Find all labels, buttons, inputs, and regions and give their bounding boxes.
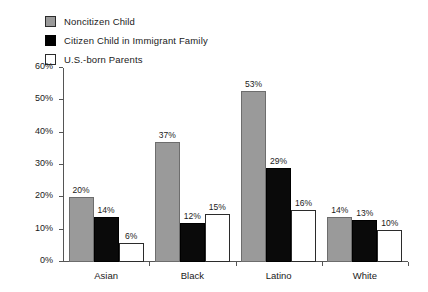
y-axis-tick-label: 30% [35, 158, 53, 169]
bar-column[interactable]: 15% [205, 68, 230, 262]
bar-value-label: 6% [125, 231, 137, 241]
plot-area: 0%10%20%30%40%50%60% 20%14%6%Asian37%12%… [63, 68, 408, 262]
bar[interactable] [180, 223, 205, 262]
legend-label-noncitizen-child: Noncitizen Child [64, 16, 135, 27]
y-axis-tick-label: 40% [35, 126, 53, 137]
bar-column[interactable]: 37% [155, 68, 180, 262]
legend-label-us-born-parents: U.S.-born Parents [64, 54, 143, 65]
bar-column[interactable]: 53% [241, 68, 266, 262]
legend-label-citizen-child-immigrant-family: Citizen Child in Immigrant Family [64, 35, 208, 46]
bar-value-label: 12% [184, 211, 201, 221]
x-axis-category-label: Black [149, 270, 235, 281]
bar-value-label: 53% [245, 79, 262, 89]
y-axis-tick-label: 20% [35, 190, 53, 201]
x-axis-category-label: White [322, 270, 408, 281]
bar[interactable] [327, 217, 352, 262]
bar-value-label: 29% [270, 156, 287, 166]
bar-group-bars: 37%12%15% [149, 68, 235, 262]
bar-column[interactable]: 6% [119, 68, 144, 262]
bar[interactable] [291, 210, 316, 262]
bar-column[interactable]: 29% [266, 68, 291, 262]
bar-value-label: 20% [73, 185, 90, 195]
bar[interactable] [266, 168, 291, 262]
y-axis-tick-label: 50% [35, 93, 53, 104]
legend-swatch-icon-noncitizen-child [45, 16, 56, 27]
bar-group-bars: 53%29%16% [236, 68, 322, 262]
bar[interactable] [352, 220, 377, 262]
bar-column[interactable]: 12% [180, 68, 205, 262]
bar[interactable] [119, 243, 144, 262]
y-axis-tick-label: 0% [40, 255, 53, 266]
x-axis-separator [236, 262, 237, 266]
y-axis-tick-label: 60% [35, 61, 53, 72]
x-axis-separator [408, 262, 409, 266]
legend-item-citizen-child-immigrant-family: Citizen Child in Immigrant Family [45, 31, 305, 50]
bar[interactable] [69, 197, 94, 262]
bar-column[interactable]: 14% [327, 68, 352, 262]
bar-value-label: 15% [209, 202, 226, 212]
legend-item-us-born-parents: U.S.-born Parents [45, 50, 305, 69]
bar[interactable] [377, 230, 402, 262]
chart-legend: Noncitizen Child Citizen Child in Immigr… [45, 12, 305, 69]
bar[interactable] [241, 91, 266, 262]
bar-value-label: 37% [159, 130, 176, 140]
bar-group: 37%12%15%Black [149, 68, 235, 262]
x-axis-category-label: Asian [63, 270, 149, 281]
x-axis-category-label: Latino [236, 270, 322, 281]
bar-column[interactable]: 13% [352, 68, 377, 262]
bar-value-label: 14% [331, 205, 348, 215]
bar-group: 20%14%6%Asian [63, 68, 149, 262]
bar[interactable] [205, 214, 230, 263]
bar-group: 53%29%16%Latino [236, 68, 322, 262]
bar-column[interactable]: 14% [94, 68, 119, 262]
legend-swatch-icon-citizen-child-immigrant-family [45, 35, 56, 46]
bar-column[interactable]: 20% [69, 68, 94, 262]
x-axis-separator [322, 262, 323, 266]
x-axis-separator [149, 262, 150, 266]
bar[interactable] [155, 142, 180, 262]
bar-column[interactable]: 10% [377, 68, 402, 262]
bar-chart: Noncitizen Child Citizen Child in Immigr… [0, 0, 428, 292]
y-axis-tick-label: 10% [35, 223, 53, 234]
bar[interactable] [94, 217, 119, 262]
bar-group-bars: 14%13%10% [322, 68, 408, 262]
bar-value-label: 13% [356, 208, 373, 218]
bar-group: 14%13%10%White [322, 68, 408, 262]
bar-value-label: 14% [98, 205, 115, 215]
bar-column[interactable]: 16% [291, 68, 316, 262]
bar-group-bars: 20%14%6% [63, 68, 149, 262]
bar-value-label: 16% [295, 198, 312, 208]
legend-item-noncitizen-child: Noncitizen Child [45, 12, 305, 31]
bar-value-label: 10% [381, 218, 398, 228]
